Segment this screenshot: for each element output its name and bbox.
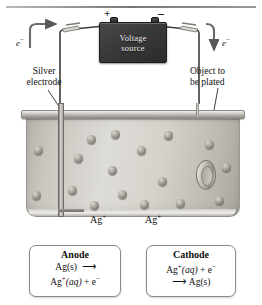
voltage-source-label-line1: Voltage (119, 33, 146, 43)
object-to-be-plated-ring (196, 160, 216, 190)
ring-inner-hole (201, 166, 213, 186)
voltage-source: Voltage source (99, 22, 167, 63)
ion-sphere (215, 196, 224, 205)
ion-sphere (222, 163, 231, 172)
cathode-equation-line1: Ag+(aq) + e− (147, 261, 235, 276)
electron-label-right: e− (222, 36, 230, 48)
voltage-source-label-line2: source (121, 43, 144, 53)
ion-sphere (87, 135, 96, 144)
ion-sphere (176, 199, 185, 208)
negative-sign-label: − (157, 9, 164, 20)
ion-sphere (68, 186, 77, 195)
ion-sphere (158, 177, 167, 186)
anode-reaction-box: Anode Ag(s) ⟶ Ag+(aq) + e− (29, 245, 121, 297)
silver-electrode-foot (58, 209, 84, 212)
ion-sphere (34, 146, 43, 155)
ion-sphere (205, 140, 214, 149)
anode-equation-line1: Ag(s) ⟶ (30, 261, 120, 273)
ion-sphere (164, 131, 173, 140)
positive-sign-label: + (104, 8, 110, 19)
object-hanger-rod (196, 103, 199, 117)
clip-right (180, 23, 198, 32)
cathode-title: Cathode (147, 249, 235, 261)
electron-flow-arrow-left (30, 24, 56, 48)
silver-electrode-label: Silver electrode (8, 66, 80, 88)
ion-label-right: Ag+ (145, 213, 161, 225)
object-to-be-plated-label: Object to be plated (190, 66, 260, 88)
ion-sphere (118, 190, 127, 199)
ion-sphere (90, 201, 99, 210)
ion-sphere (74, 154, 83, 163)
electroplating-diagram: + − Voltage source e− e− Silver electrod… (0, 0, 262, 305)
ion-sphere (32, 191, 41, 200)
electron-flow-arrow-right (206, 24, 214, 50)
cathode-equation-line2: ⟶ Ag(s) (147, 276, 235, 288)
anode-equation-line2: Ag+(aq) + e− (30, 273, 120, 288)
anode-title: Anode (30, 249, 120, 261)
electron-label-left: e− (16, 36, 24, 48)
ion-sphere (108, 166, 117, 175)
ion-sphere (111, 130, 120, 139)
ion-sphere (140, 200, 149, 209)
wire-left (60, 26, 104, 104)
ion-sphere (137, 146, 146, 155)
ion-label-left: Ag+ (90, 213, 106, 225)
clip-left (62, 23, 80, 32)
silver-electrode (58, 103, 64, 217)
plating-tank-rim (21, 110, 245, 119)
cathode-reaction-box: Cathode Ag+(aq) + e− ⟶ Ag(s) (146, 245, 236, 297)
